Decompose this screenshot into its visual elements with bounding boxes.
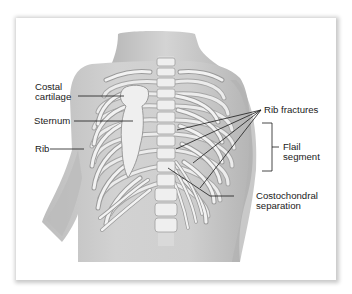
label-flail-segment-line2: segment	[283, 152, 320, 162]
label-costochondral-separation-line2: separation	[256, 201, 318, 211]
label-rib-fractures: Rib fractures	[264, 105, 318, 115]
spine	[155, 56, 177, 246]
label-rib: Rib	[35, 144, 49, 154]
label-flail-segment: Flail segment	[283, 142, 320, 161]
torso-silhouette	[42, 31, 256, 262]
label-costal-cartilage: Costal cartilage	[35, 82, 71, 101]
label-costal-cartilage-line2: cartilage	[35, 92, 71, 102]
label-costochondral-separation: Costochondral separation	[256, 191, 318, 210]
label-sternum: Sternum	[34, 116, 70, 126]
